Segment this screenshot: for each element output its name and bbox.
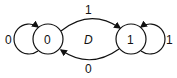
state-diagram: 0 0 1 0 D 1 1 (0, 0, 177, 78)
transition-s0-s1 (61, 19, 120, 31)
self-loop-s0-label: 0 (5, 33, 12, 47)
self-loop-s1 (141, 24, 165, 54)
self-loop-s0 (14, 24, 38, 54)
transition-s1-s0 (61, 49, 119, 60)
state-s1-label: 1 (127, 33, 134, 47)
state-s0-label: 0 (44, 33, 51, 47)
transition-s0-s1-label: 1 (85, 3, 92, 17)
self-loop-s1-label: 1 (166, 33, 173, 47)
diagram-center-label: D (84, 33, 93, 47)
transition-s1-s0-label: 0 (85, 62, 92, 76)
